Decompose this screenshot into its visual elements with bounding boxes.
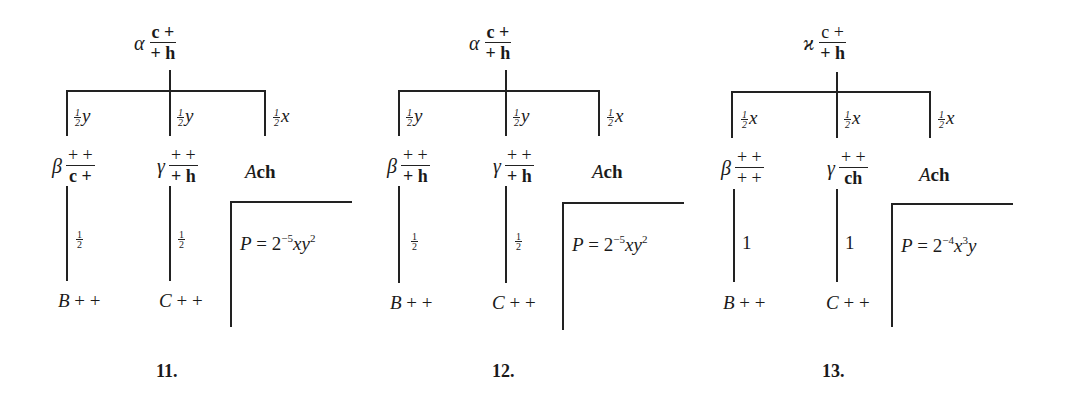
branch-mid	[505, 90, 507, 136]
stem-beta	[398, 186, 400, 283]
diagram-caption: 12.	[492, 361, 515, 382]
sub-label-2: 1	[845, 233, 855, 252]
child-gamma: γ+ ++ h	[493, 145, 534, 186]
branch-label-2: 12x	[844, 108, 860, 129]
root-stem	[836, 72, 838, 91]
stem-gamma	[836, 189, 838, 282]
probability-formula: P = 2−5xy2	[572, 234, 647, 254]
stem-beta	[733, 189, 735, 282]
child-beta: β+ ++ +	[721, 147, 764, 188]
sub-label-1: 12	[411, 230, 419, 251]
branch-label-1: 12x	[741, 108, 757, 129]
branch-bar	[398, 90, 599, 92]
child-gamma: γ+ +ch	[827, 147, 868, 188]
diagram-caption: 13.	[822, 361, 845, 382]
stem-gamma	[505, 186, 507, 283]
leaf-c: C + +	[492, 293, 536, 312]
branch-right	[929, 91, 931, 138]
child-ach: Ach	[919, 165, 950, 184]
sub-label-2: 12	[515, 230, 523, 251]
root-greek: α	[134, 32, 145, 54]
branch-right	[598, 90, 600, 136]
root-fraction: c ++ h	[149, 22, 178, 63]
branch-mid	[169, 90, 171, 136]
diagram-caption: 11.	[156, 361, 178, 382]
child-beta: β+ +c +	[52, 145, 95, 186]
root-node: αc ++ h	[134, 22, 177, 63]
branch-bar	[731, 91, 930, 93]
probability-formula: P = 2−4x3y	[901, 235, 976, 255]
prob-box-top	[891, 203, 1013, 205]
branch-left	[731, 91, 733, 138]
root-stem	[505, 70, 507, 90]
probability-formula: P = 2−5xy2	[240, 233, 315, 253]
leaf-b: B + +	[723, 293, 766, 312]
sub-label-2: 12	[178, 228, 186, 249]
root-node: αc ++ h	[469, 22, 512, 63]
branch-right	[264, 90, 266, 136]
branch-label-1: 12y	[74, 106, 90, 127]
branch-label-3: 12x	[273, 106, 289, 127]
root-stem	[169, 70, 171, 90]
branch-label-3: 12x	[938, 108, 954, 129]
prob-box-left	[562, 202, 564, 330]
branch-mid	[836, 91, 838, 138]
branch-label-1: 12y	[406, 106, 422, 127]
child-ach: Ach	[245, 162, 276, 181]
branch-label-2: 12y	[177, 106, 193, 127]
diagram-13: ϰc ++ h 12x 12x 12x β+ ++ + γ+ +ch Ach 1…	[665, 0, 1065, 396]
branch-bar	[66, 90, 266, 92]
branch-left	[398, 90, 400, 136]
leaf-b: B + +	[58, 291, 101, 310]
stem-beta	[66, 186, 68, 281]
stem-gamma	[169, 186, 171, 281]
leaf-c: C + +	[826, 293, 870, 312]
sub-label-1: 12	[76, 228, 84, 249]
leaf-c: C + +	[159, 291, 203, 310]
prob-box-left	[230, 201, 232, 327]
prob-box-left	[891, 203, 893, 327]
root-node: ϰc ++ h	[803, 22, 847, 63]
diagram-11: αc ++ h 12y 12y 12x β+ +c + γ+ ++ h Ach …	[0, 0, 360, 396]
child-gamma: γ+ ++ h	[157, 145, 198, 186]
child-ach: Ach	[592, 162, 623, 181]
branch-label-3: 12x	[607, 106, 623, 127]
branch-left	[66, 90, 68, 136]
child-beta: β+ ++ h	[387, 145, 430, 186]
branch-label-2: 12y	[513, 106, 529, 127]
diagram-12: αc ++ h 12y 12y 12x β+ ++ h γ+ ++ h Ach …	[332, 0, 692, 396]
leaf-b: B + +	[390, 293, 433, 312]
sub-label-1: 1	[742, 233, 752, 252]
